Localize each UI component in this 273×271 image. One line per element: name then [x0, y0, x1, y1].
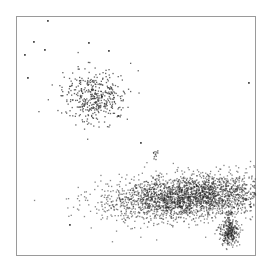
data-point [127, 190, 128, 191]
data-point [188, 206, 189, 207]
data-point [85, 104, 86, 105]
data-point [227, 232, 228, 233]
data-point [98, 121, 99, 122]
data-point [169, 188, 170, 189]
data-point [199, 192, 200, 193]
data-point [81, 194, 82, 195]
data-point [170, 213, 171, 214]
data-point [230, 210, 231, 211]
data-point [94, 102, 95, 103]
data-point [234, 217, 235, 218]
data-point [112, 201, 113, 202]
data-point [162, 210, 163, 211]
data-point [122, 194, 123, 195]
data-point [112, 241, 113, 242]
data-point [111, 186, 112, 187]
data-point [159, 184, 160, 185]
data-point [69, 224, 71, 226]
data-point [224, 208, 225, 209]
data-point [223, 225, 224, 226]
data-point [234, 185, 235, 186]
data-point [62, 72, 63, 73]
data-point [224, 196, 225, 197]
data-point [176, 197, 177, 198]
data-point [128, 202, 129, 203]
data-point [99, 103, 100, 104]
data-point [193, 204, 194, 205]
data-point [182, 198, 183, 199]
data-point [198, 196, 199, 197]
data-point [126, 205, 127, 206]
data-point [232, 206, 233, 207]
data-point [203, 178, 204, 179]
data-point [113, 206, 114, 207]
data-point [136, 195, 137, 196]
data-point [223, 177, 224, 178]
data-point [83, 80, 84, 81]
data-point [172, 208, 173, 209]
data-point [107, 183, 108, 184]
data-point [197, 203, 198, 204]
data-point [108, 50, 110, 52]
data-point [147, 192, 148, 193]
data-point [133, 180, 134, 181]
data-point [172, 189, 173, 190]
data-point [105, 70, 106, 71]
data-point [234, 183, 235, 184]
data-point [170, 203, 171, 204]
data-point [82, 103, 83, 104]
data-point [210, 199, 211, 200]
data-point [142, 187, 143, 188]
data-point [116, 220, 117, 221]
data-point [235, 201, 236, 202]
data-point [130, 211, 131, 212]
data-point [109, 205, 110, 206]
data-point [231, 212, 232, 213]
data-point [251, 175, 252, 176]
data-point [242, 187, 243, 188]
data-point [134, 192, 135, 193]
data-point [229, 188, 230, 189]
data-point [223, 201, 224, 202]
data-point [241, 209, 242, 210]
data-point [94, 83, 95, 84]
data-point [147, 182, 148, 183]
data-point [236, 223, 237, 224]
data-point [239, 189, 240, 190]
data-point [104, 197, 105, 198]
data-point [102, 209, 103, 210]
data-point [44, 49, 46, 51]
data-point [220, 238, 221, 239]
data-point [229, 233, 230, 234]
data-point [133, 188, 134, 189]
data-point [135, 208, 136, 209]
data-point [137, 191, 138, 192]
data-point [157, 152, 158, 153]
data-point [99, 83, 100, 84]
data-point [133, 208, 134, 209]
data-point [164, 187, 165, 188]
data-point [176, 217, 177, 218]
data-point [124, 196, 125, 197]
data-point [250, 189, 251, 190]
data-point [157, 187, 158, 188]
data-point [127, 119, 128, 120]
data-point [107, 87, 108, 88]
data-point [242, 194, 243, 195]
data-point [212, 184, 213, 185]
data-point [134, 176, 135, 177]
data-point [212, 217, 213, 218]
data-point [184, 191, 185, 192]
data-point [120, 215, 121, 216]
data-point [180, 207, 181, 208]
data-point [222, 203, 223, 204]
data-point [101, 96, 102, 97]
data-point [205, 182, 206, 183]
data-point [245, 184, 246, 185]
data-point [88, 81, 89, 82]
data-point [167, 190, 168, 191]
data-point [148, 210, 149, 211]
data-point [215, 186, 216, 187]
data-point [129, 192, 130, 193]
data-point [177, 188, 178, 189]
